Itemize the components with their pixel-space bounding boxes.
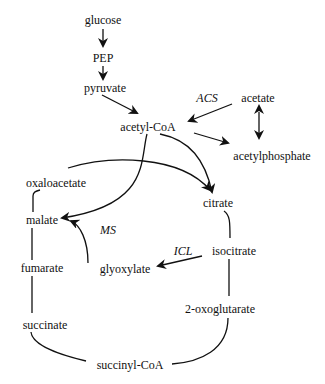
metabolite-oxaloacetate: oxaloacetate bbox=[26, 177, 86, 189]
line-citrate-isocitrate bbox=[224, 211, 230, 238]
line-malate-oxaloacetate bbox=[33, 190, 40, 212]
metabolite-succinate: succinate bbox=[23, 319, 68, 331]
metabolite-glucose: glucose bbox=[85, 14, 122, 26]
arrow-oxaloacetate-citrate bbox=[68, 160, 210, 190]
arrow-glyoxylate-malate bbox=[71, 221, 88, 263]
enzyme-ms: MS bbox=[100, 224, 116, 236]
metabolite-fumarate: fumarate bbox=[21, 262, 64, 274]
metabolite-acetate: acetate bbox=[241, 92, 274, 104]
pathway-diagram: glucose PEP pyruvate ACS acetate acetyl-… bbox=[0, 0, 325, 384]
metabolite-glyoxylate: glyoxylate bbox=[100, 263, 151, 275]
metabolite-pyruvate: pyruvate bbox=[84, 82, 126, 94]
metabolite-isocitrate: isocitrate bbox=[212, 245, 256, 257]
line-succinylcoa-succinate bbox=[31, 332, 86, 361]
metabolite-pep: PEP bbox=[93, 52, 114, 64]
metabolite-acetyl-coa: acetyl-CoA bbox=[120, 121, 175, 133]
metabolite-acetylphosphate: acetylphosphate bbox=[233, 150, 310, 162]
line-oxoglutarate-succinylcoa bbox=[172, 318, 228, 364]
enzyme-acs: ACS bbox=[196, 92, 217, 104]
metabolite-succinyl-coa: succinyl-CoA bbox=[97, 359, 164, 371]
metabolite-citrate: citrate bbox=[203, 197, 233, 209]
metabolite-2-oxoglutarate: 2-oxoglutarate bbox=[185, 303, 255, 315]
arrow-acetate-acetylcoa bbox=[189, 104, 232, 121]
arrow-acetylcoa-acetylphosphate bbox=[194, 133, 228, 143]
enzyme-icl: ICL bbox=[174, 245, 193, 257]
metabolite-malate: malate bbox=[26, 214, 58, 226]
arrow-pyruvate-acetylcoa bbox=[102, 95, 137, 113]
